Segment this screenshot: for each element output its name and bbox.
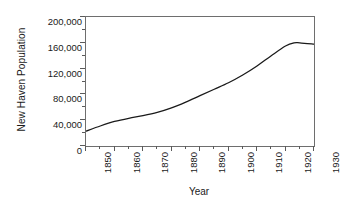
- x-tick-label: 1920: [302, 152, 313, 186]
- x-tick-label: 1930: [330, 152, 341, 186]
- x-tick-label: 1870: [159, 152, 170, 186]
- x-tick-label: 1880: [188, 152, 199, 186]
- x-tick-label: 1900: [245, 152, 256, 186]
- x-tick-label: 1910: [273, 152, 284, 186]
- x-axis-title: Year: [85, 186, 313, 197]
- x-tick-label: 1890: [216, 152, 227, 186]
- x-tick-label: 1850: [102, 152, 113, 186]
- x-tick-label: 1860: [131, 152, 142, 186]
